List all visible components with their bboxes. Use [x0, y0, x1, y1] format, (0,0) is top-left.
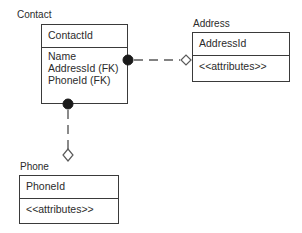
entity-key-compartment-contact: ContactId — [42, 25, 127, 48]
relationship-marker-hollow-diamond-phone — [63, 149, 73, 161]
attribute-phone-placeholder: <<attributes>> — [26, 203, 113, 215]
entity-box-contact[interactable]: ContactId Name AddressId (FK) PhoneId (F… — [41, 24, 128, 104]
entity-label-phone: Phone — [20, 161, 49, 172]
attribute-contactid: ContactId — [48, 29, 122, 41]
entity-key-compartment-address: AddressId — [193, 33, 289, 56]
entity-attributes-compartment-contact: Name AddressId (FK) PhoneId (FK) — [42, 48, 127, 88]
entity-key-compartment-phone: PhoneId — [20, 176, 118, 199]
entity-label-contact: Contact — [17, 9, 51, 20]
attribute-name: Name — [48, 50, 122, 62]
attribute-address-placeholder: <<attributes>> — [199, 60, 284, 72]
attribute-addressid: AddressId — [199, 37, 284, 49]
entity-label-address: Address — [193, 18, 230, 29]
attribute-addressid-fk: AddressId (FK) — [48, 62, 122, 74]
attribute-phoneid: PhoneId — [26, 180, 113, 192]
relationship-marker-hollow-diamond-address — [181, 55, 191, 65]
entity-attributes-compartment-address: <<attributes>> — [193, 56, 289, 74]
diagram-canvas: Contact ContactId Name AddressId (FK) Ph… — [0, 0, 302, 233]
entity-attributes-compartment-phone: <<attributes>> — [20, 199, 118, 217]
attribute-phoneid-fk: PhoneId (FK) — [48, 74, 122, 86]
entity-box-address[interactable]: AddressId <<attributes>> — [192, 32, 290, 82]
entity-box-phone[interactable]: PhoneId <<attributes>> — [19, 175, 119, 224]
